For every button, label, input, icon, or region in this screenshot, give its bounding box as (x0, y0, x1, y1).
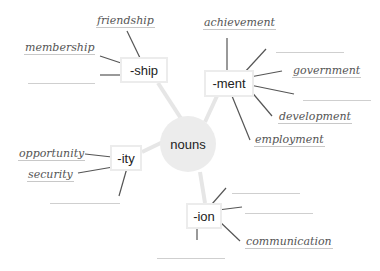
suffix-ion-label: -ion (193, 209, 215, 224)
word-development: development (278, 111, 352, 124)
word-friendship: friendship (96, 15, 155, 28)
word-opportunity: opportunity (18, 148, 85, 161)
suffix-ship-box: -ship (120, 57, 168, 83)
blank-ment-1[interactable] (276, 52, 344, 53)
blank-ment-2[interactable] (303, 100, 371, 101)
word-employment: employment (254, 134, 325, 147)
word-communication: communication (245, 236, 333, 249)
word-government: government (292, 65, 361, 78)
suffix-ship-label: -ship (130, 63, 158, 78)
blank-ity[interactable] (50, 203, 120, 204)
blank-ion-1[interactable] (232, 193, 300, 194)
suffix-ment-label: -ment (212, 76, 245, 91)
suffix-ion-box: -ion (186, 203, 222, 229)
blank-ship[interactable] (28, 83, 95, 84)
hub-node: nouns (160, 116, 216, 172)
suffix-ment-box: -ment (204, 70, 254, 97)
blank-ion-2[interactable] (245, 213, 313, 214)
hub-label: nouns (170, 137, 205, 152)
blank-ion-3[interactable] (157, 258, 225, 259)
word-membership: membership (24, 42, 95, 55)
suffix-ity-label: -ity (117, 151, 134, 166)
word-achievement: achievement (203, 17, 276, 30)
suffix-ity-box: -ity (110, 145, 142, 171)
word-security: security (27, 169, 74, 182)
